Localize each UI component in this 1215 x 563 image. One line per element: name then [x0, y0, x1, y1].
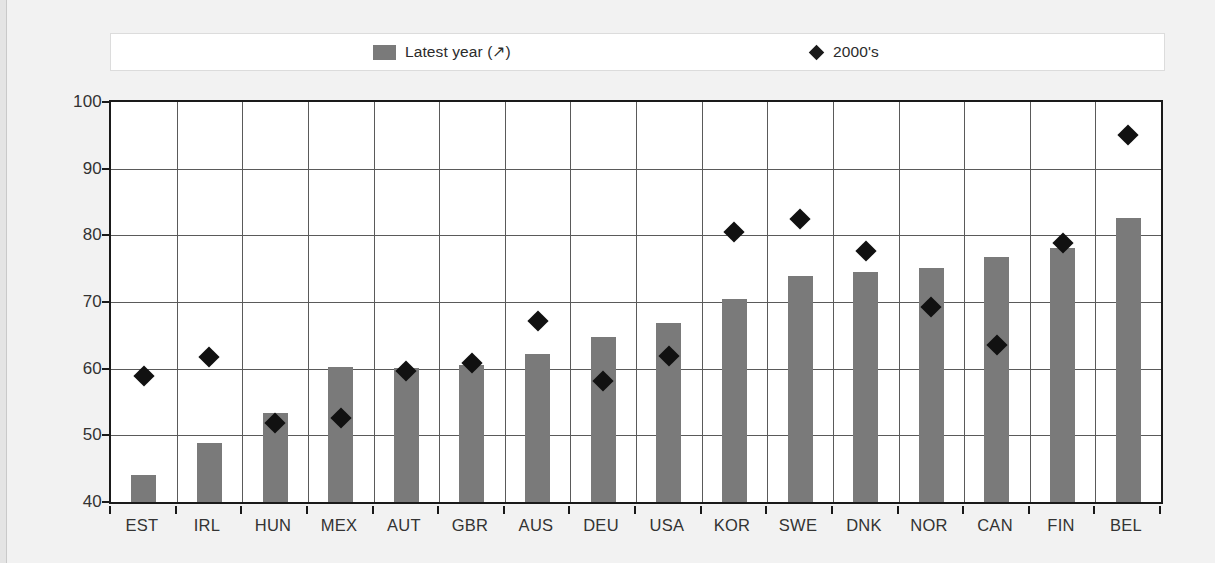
legend-label-2000s: 2000's	[833, 43, 879, 61]
x-tick-mark	[109, 506, 111, 514]
x-tick-mark	[634, 506, 636, 514]
x-tick-mark	[306, 506, 308, 514]
y-tick-label-100: 100	[56, 92, 102, 112]
bar-swe	[788, 276, 813, 502]
legend-square-swatch-icon	[373, 45, 396, 60]
gridline-vertical	[1095, 102, 1096, 502]
bar-irl	[197, 443, 222, 502]
gridline-vertical	[374, 102, 375, 502]
diamond-marker-dnk	[855, 241, 876, 262]
bar-dnk	[853, 272, 878, 502]
gridline-vertical	[308, 102, 309, 502]
x-tick-label-can: CAN	[977, 516, 1013, 535]
x-tick-mark	[372, 506, 374, 514]
x-tick-mark	[765, 506, 767, 514]
x-tick-label-irl: IRL	[194, 516, 221, 535]
diamond-marker-kor	[723, 221, 744, 242]
x-tick-label-fin: FIN	[1047, 516, 1074, 535]
bar-can	[984, 257, 1009, 502]
gridline-vertical	[242, 102, 243, 502]
bar-aus	[525, 354, 550, 502]
legend-label-latest-year: Latest year (↗)	[405, 43, 511, 61]
x-tick-label-gbr: GBR	[452, 516, 489, 535]
x-tick-mark	[503, 506, 505, 514]
legend-entry-2000s: 2000's	[811, 34, 879, 70]
x-tick-mark	[437, 506, 439, 514]
x-tick-mark	[1093, 506, 1095, 514]
gridline-vertical	[964, 102, 965, 502]
legend-diamond-swatch-icon	[809, 44, 825, 60]
x-tick-mark	[1028, 506, 1030, 514]
diamond-marker-aus	[527, 310, 548, 331]
bar-est	[131, 475, 156, 502]
y-axis: 405060708090100	[48, 100, 102, 504]
x-tick-mark	[1159, 506, 1161, 514]
x-tick-mark	[700, 506, 702, 514]
x-tick-mark	[568, 506, 570, 514]
x-tick-label-est: EST	[126, 516, 159, 535]
x-axis: ESTIRLHUNMEXAUTGBRAUSDEUUSAKORSWEDNKNORC…	[109, 506, 1163, 540]
legend-entry-latest-year: Latest year (↗)	[373, 34, 511, 70]
gridline-vertical	[702, 102, 703, 502]
diamond-marker-swe	[789, 209, 810, 230]
x-tick-mark	[831, 506, 833, 514]
y-tick-label-50: 50	[56, 425, 102, 445]
chart-page: Latest year (↗) 2000's 405060708090100 E…	[0, 0, 1215, 563]
gridline-vertical	[767, 102, 768, 502]
bar-aut	[394, 368, 419, 502]
y-tick-label-90: 90	[56, 159, 102, 179]
x-tick-label-usa: USA	[650, 516, 685, 535]
x-tick-label-hun: HUN	[255, 516, 292, 535]
x-tick-label-bel: BEL	[1110, 516, 1142, 535]
x-tick-label-mex: MEX	[321, 516, 358, 535]
x-tick-mark	[962, 506, 964, 514]
x-tick-mark	[175, 506, 177, 514]
bar-gbr	[459, 365, 484, 502]
gridline-vertical	[899, 102, 900, 502]
gridline-vertical	[1030, 102, 1031, 502]
gridline-vertical	[439, 102, 440, 502]
gridline-vertical	[833, 102, 834, 502]
x-tick-label-swe: SWE	[779, 516, 817, 535]
bar-fin	[1050, 248, 1075, 502]
y-tick-label-40: 40	[56, 492, 102, 512]
bar-mex	[328, 367, 353, 502]
gridline-vertical	[636, 102, 637, 502]
gridline-vertical	[570, 102, 571, 502]
x-tick-label-deu: DEU	[583, 516, 619, 535]
x-tick-mark	[897, 506, 899, 514]
gridline-vertical	[177, 102, 178, 502]
diamond-marker-irl	[198, 346, 219, 367]
diamond-marker-bel	[1117, 125, 1138, 146]
y-tick-label-60: 60	[56, 359, 102, 379]
y-tick-label-80: 80	[56, 225, 102, 245]
bar-deu	[591, 337, 616, 502]
x-tick-mark	[240, 506, 242, 514]
plot-area	[109, 100, 1163, 504]
gridline-vertical	[505, 102, 506, 502]
plot-inner	[111, 102, 1161, 502]
x-tick-label-nor: NOR	[910, 516, 948, 535]
x-tick-label-dnk: DNK	[846, 516, 882, 535]
chart-legend: Latest year (↗) 2000's	[110, 33, 1165, 71]
bar-bel	[1116, 218, 1141, 502]
bar-kor	[722, 299, 747, 502]
x-tick-label-aut: AUT	[387, 516, 421, 535]
x-tick-label-aus: AUS	[519, 516, 554, 535]
y-tick-label-70: 70	[56, 292, 102, 312]
x-tick-label-kor: KOR	[714, 516, 751, 535]
